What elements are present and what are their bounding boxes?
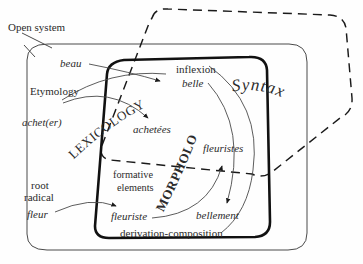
- word-fleuriste: fleuriste: [111, 211, 147, 223]
- open-system-boundary: [27, 44, 307, 250]
- arrow-beau-to-belle: [89, 64, 160, 81]
- open-system-label: Open system: [8, 22, 65, 34]
- word-belle: belle: [182, 78, 203, 90]
- label-radical: radical: [24, 192, 54, 204]
- diagram-vector-layer: LEXICOLOGY MORPHOLOGY Syntax: [0, 0, 363, 264]
- word-bellement: bellement: [196, 210, 239, 222]
- diagram-canvas: LEXICOLOGY MORPHOLOGY Syntax Open system…: [0, 0, 363, 264]
- arrow-fleur-to-fleuriste: [55, 202, 116, 212]
- label-inflexion: inflexion: [176, 64, 216, 76]
- label-elements: elements: [117, 183, 154, 194]
- label-formative: formative: [113, 170, 153, 181]
- word-fleuristes: fleuristes: [203, 143, 243, 155]
- label-derivation-composition: derivation-composition: [120, 228, 223, 240]
- word-fleur: fleur: [27, 209, 48, 221]
- word-acheter: achet(er): [22, 117, 62, 128]
- word-achetees: achetées: [133, 124, 171, 136]
- word-beau: beau: [60, 58, 81, 70]
- label-etymology: Etymology: [30, 86, 79, 98]
- label-root: root: [31, 180, 49, 192]
